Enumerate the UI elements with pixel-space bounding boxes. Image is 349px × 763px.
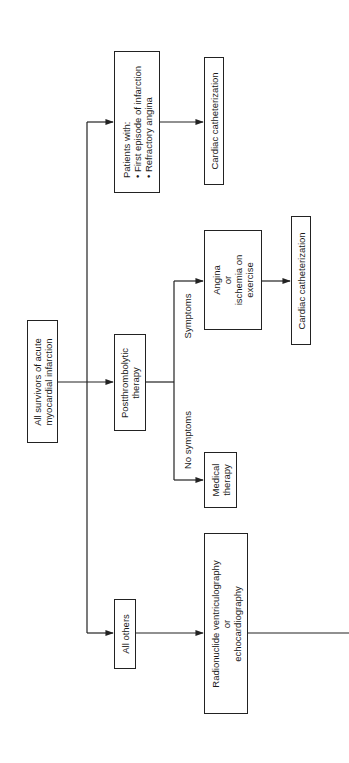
node-text: Radionuclide ventriculography	[210, 560, 221, 687]
node-postthrombolytic-therapy: Postthrombolytic therapy	[114, 334, 146, 431]
bullet-item: • Refractory angina	[143, 66, 154, 178]
node-text: Cardiac catheterization	[296, 232, 307, 329]
node-medical-therapy: Medical therapy	[204, 452, 237, 508]
node-text: or	[221, 560, 232, 687]
node-text: therapy	[130, 347, 141, 417]
node-heading: Patients with:	[121, 66, 132, 178]
node-text: Medical	[210, 464, 221, 497]
node-text: Cardiac catheterization	[209, 72, 220, 169]
node-cardiac-catheterization-2: Cardiac catheterization	[291, 216, 311, 345]
node-cardiac-catheterization-1: Cardiac catheterization	[204, 57, 224, 185]
bullet-text: Refractory angina	[143, 97, 154, 172]
node-text: or	[222, 255, 233, 306]
node-text: echocardiography	[232, 560, 243, 687]
node-angina-or-ischemia: Angina or ischemia on exercise	[204, 230, 262, 330]
node-all-survivors: All survivors of acute myocardial infarc…	[27, 320, 58, 443]
node-text: ischemia on	[233, 255, 244, 306]
node-radionuclide-echocardiography: Radionuclide ventriculography or echocar…	[204, 533, 248, 714]
flowchart: All survivors of acute myocardial infarc…	[0, 0, 349, 763]
bullet-item: • First episode of infarction	[132, 66, 143, 178]
node-text: exercise	[244, 255, 255, 306]
node-text: Postthrombolytic	[119, 347, 130, 417]
bullet-text: First episode of infarction	[132, 66, 143, 172]
node-text: myocardial infarction	[43, 338, 54, 426]
node-text: Angina	[211, 255, 222, 306]
edge-label-no-symptoms: No symptoms	[182, 411, 193, 469]
node-patients-with: Patients with: • First episode of infarc…	[114, 51, 160, 193]
edge-label-symptoms: Symptoms	[182, 294, 193, 339]
node-text: therapy	[221, 464, 232, 497]
node-text: All others	[120, 614, 131, 654]
node-text: All survivors of acute	[32, 338, 43, 426]
node-all-others: All others	[114, 599, 136, 669]
